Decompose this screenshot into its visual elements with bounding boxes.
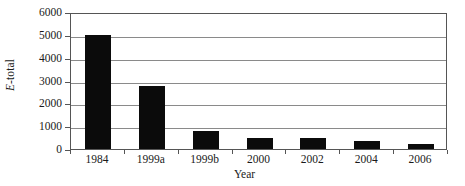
- x-axis-title: Year: [0, 169, 465, 181]
- bar-series: [71, 14, 446, 149]
- plot-area: [70, 13, 447, 150]
- bar: [247, 138, 273, 149]
- y-axis-tick-label: 4000: [16, 53, 62, 65]
- y-axis-tick-label: 2000: [16, 98, 62, 110]
- x-axis-title-text: Year: [234, 168, 255, 180]
- bar: [408, 144, 434, 149]
- bar: [139, 86, 165, 149]
- y-axis-tick-label: 3000: [16, 76, 62, 88]
- bar: [85, 35, 111, 149]
- y-axis-tick-label: 6000: [16, 7, 62, 19]
- bar-chart-figure: E-total 6000500040003000200010000 198419…: [0, 0, 465, 186]
- bar: [300, 138, 326, 149]
- y-axis-tick-label: 5000: [16, 30, 62, 42]
- bar: [193, 131, 219, 149]
- y-axis-tick-label: 1000: [16, 121, 62, 133]
- y-axis-title-text: E-total: [4, 59, 16, 91]
- bar: [354, 141, 380, 149]
- y-axis-tick-label: 0: [16, 144, 62, 156]
- x-axis-tick-label: 2006: [380, 154, 460, 166]
- y-axis-title-suffix: -total: [4, 59, 16, 84]
- y-axis-title-italic-prefix: E: [4, 84, 16, 91]
